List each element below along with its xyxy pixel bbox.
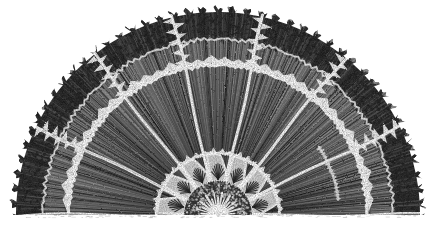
engraving-figure: Half-dome fan vault engraving Radially s… — [0, 0, 437, 228]
half-dome-engraving-canvas — [0, 0, 437, 228]
